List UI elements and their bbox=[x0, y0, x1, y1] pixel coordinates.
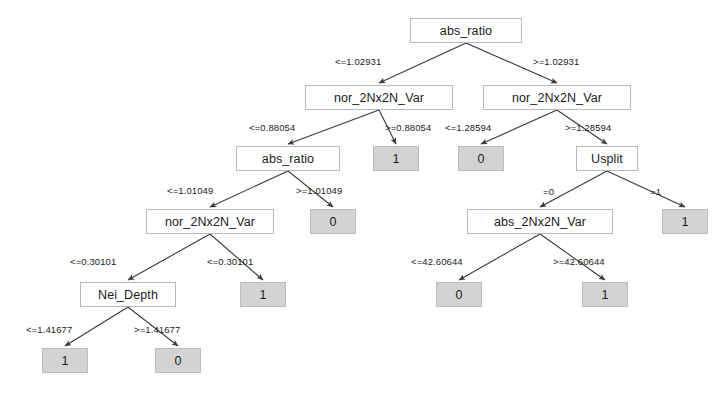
decision-node: abs_ratio bbox=[410, 18, 522, 43]
tree-edge bbox=[128, 234, 210, 280]
edge-label: <=0.88054 bbox=[249, 122, 295, 133]
tree-edge bbox=[288, 110, 379, 144]
edge-label: <=0.30101 bbox=[70, 256, 116, 267]
decision-node: nor_2Nx2N_Var bbox=[483, 85, 631, 110]
edge-label: <=0.30101 bbox=[207, 256, 253, 267]
edge-label: >=1.02931 bbox=[533, 56, 579, 67]
tree-edge bbox=[481, 110, 557, 144]
decision-node: Usplit bbox=[576, 146, 638, 171]
tree-edge bbox=[379, 43, 466, 83]
edge-label: <=1.28594 bbox=[445, 122, 491, 133]
decision-node: Nei_Depth bbox=[80, 282, 176, 307]
leaf-node: 1 bbox=[582, 282, 628, 307]
edge-label: >=0.88054 bbox=[385, 122, 431, 133]
tree-edge bbox=[65, 307, 128, 346]
decision-node: abs_2Nx2N_Var bbox=[467, 209, 613, 234]
leaf-node: 1 bbox=[662, 209, 708, 234]
edge-label: >=1.28594 bbox=[565, 122, 611, 133]
edge-label: =1 bbox=[650, 186, 661, 197]
leaf-node: 0 bbox=[155, 348, 201, 373]
tree-edge bbox=[607, 171, 685, 207]
edge-label: <=1.01049 bbox=[167, 185, 213, 196]
edge-label: >=1.41677 bbox=[134, 324, 180, 335]
edge-label: <=42.60644 bbox=[411, 256, 463, 267]
leaf-node: 0 bbox=[458, 146, 504, 171]
leaf-node: 0 bbox=[310, 209, 356, 234]
edge-label: <=1.02931 bbox=[335, 56, 381, 67]
leaf-node: 1 bbox=[240, 282, 286, 307]
edge-label: >=42.60644 bbox=[553, 256, 605, 267]
decision-node: nor_2Nx2N_Var bbox=[146, 209, 274, 234]
tree-edge bbox=[459, 234, 540, 280]
decision-node: nor_2Nx2N_Var bbox=[305, 85, 453, 110]
leaf-node: 1 bbox=[373, 146, 419, 171]
edge-label: <=1.41677 bbox=[26, 324, 72, 335]
decision-tree-figure: abs_rationor_2Nx2N_Varnor_2Nx2N_Varabs_r… bbox=[0, 0, 723, 406]
edge-label: >=1.01049 bbox=[296, 185, 342, 196]
decision-node: abs_ratio bbox=[236, 146, 340, 171]
leaf-node: 1 bbox=[42, 348, 88, 373]
tree-edge bbox=[210, 171, 288, 207]
leaf-node: 0 bbox=[436, 282, 482, 307]
edge-label: =0 bbox=[543, 186, 554, 197]
